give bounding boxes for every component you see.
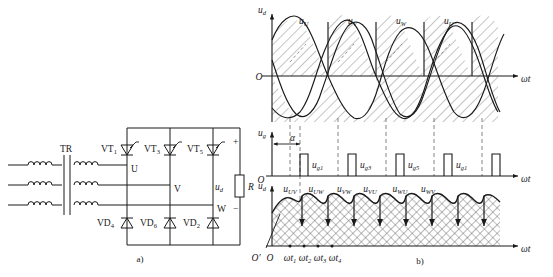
node-label-v: V (174, 184, 181, 194)
line-voltage-label-5: uWU (393, 184, 409, 195)
gate-pulse-label-1: ug1 (312, 160, 323, 171)
top-phase-label-1: uU (299, 16, 310, 27)
top-phase-label-2: uV (348, 16, 358, 27)
gate-pulse-5 (492, 154, 500, 176)
line-voltage-label-6: uWV (421, 184, 436, 195)
resistor-label: R (247, 182, 254, 192)
thyristor-vt5 (207, 142, 225, 155)
top-x-axis-label: ωt (521, 74, 531, 84)
top-y-axis-label: ud (258, 5, 267, 16)
origin-prime-label: O′ (252, 253, 262, 263)
line-voltage-label-1: uUV (283, 184, 297, 195)
time-marker-3: ωt3 (314, 253, 327, 264)
supply-lines (8, 165, 62, 205)
transformer-core (64, 155, 70, 215)
diode-vd6-label: VD6 (140, 218, 158, 229)
top-phase-label-4: uU (444, 16, 455, 27)
line-voltage-label-2: uUW (309, 184, 324, 195)
bottom-hatch-secondary (272, 193, 500, 246)
load-voltage-label: ud (215, 182, 224, 193)
polarity-positive: + (233, 137, 238, 147)
thyristor-vt1-label: VT1 (101, 144, 117, 155)
thyristor-vt1 (121, 142, 139, 155)
gate-pulse-3 (396, 154, 404, 176)
load-resistor (235, 175, 244, 197)
time-marker-4: ωt4 (329, 253, 342, 264)
waveform-panel-bottom: ud ωt O′ O ωt1 ωt2 ωt3 ωt4 uUV uUW uVW u… (252, 181, 531, 264)
waveform-panel-mid: ug O ωt α ug1 ug3 ug5 ug1 (258, 128, 531, 185)
waveform-diagram: ud O ωt uU uV uW uU ug O ωt (252, 5, 531, 266)
phase-leads (98, 165, 213, 205)
thyristor-vt3-label: VT3 (144, 144, 160, 155)
caption-b: b) (416, 256, 424, 266)
top-origin-label: O (256, 72, 263, 82)
node-label-u: U (131, 164, 138, 174)
mid-x-axis-label: ωt (521, 174, 531, 184)
top-phase-label-3: uW (396, 16, 407, 27)
transformer-secondary-windings (74, 162, 98, 205)
diode-vd4-label: VD4 (97, 218, 115, 229)
gate-pulse-1 (300, 154, 308, 176)
line-voltage-label-4: uVU (363, 184, 378, 195)
bottom-y-axis-label: ud (258, 181, 267, 192)
circuit-diagram: TR V (8, 128, 254, 264)
gate-pulse-label-4: ug1 (456, 160, 467, 171)
polarity-negative: − (233, 204, 238, 214)
line-voltage-label-3: uVW (337, 184, 352, 195)
figure-svg: TR V (0, 0, 553, 277)
diode-vd2-label: VD2 (183, 218, 200, 229)
thyristor-vt3 (164, 142, 182, 155)
gate-pulse-label-2: ug3 (360, 160, 372, 171)
figure-root: TR V (0, 0, 553, 277)
gate-pulse-4 (444, 154, 452, 176)
time-marker-1: ωt1 (284, 253, 297, 264)
time-marker-2: ωt2 (299, 253, 312, 264)
transformer-primary-windings (28, 162, 52, 205)
transformer-label: TR (60, 144, 73, 154)
mid-y-axis-label: ug (258, 128, 267, 139)
thyristor-vt5-label: VT5 (187, 144, 203, 155)
gate-pulse-label-3: ug5 (408, 160, 420, 171)
gate-pulse-group (300, 154, 500, 176)
alpha-label: α (290, 133, 296, 143)
node-label-w: W (217, 204, 226, 214)
caption-a: a) (137, 254, 144, 264)
bottom-x-axis-label: ωt (521, 244, 531, 254)
gate-pulse-2 (348, 154, 356, 176)
waveform-panel-top: ud O ωt uU uV uW uU (256, 5, 531, 122)
bottom-origin-label: O (267, 253, 274, 263)
